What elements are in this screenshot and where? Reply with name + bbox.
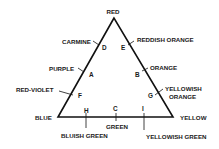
label-yellowish-orange-2: ORANGE (169, 93, 196, 100)
label-red-violet: RED-VIOLET (16, 86, 54, 93)
label-purple: PURPLE (49, 65, 74, 72)
label-yellowish-green: YELLOWISH GREEN (146, 133, 207, 140)
letter-f: F (78, 92, 82, 99)
label-green: GREEN (106, 123, 129, 130)
color-triangle-diagram: RED BLUE YELLOW CARMINE D PURPLE A RED-V… (0, 0, 219, 149)
letter-a: A (89, 71, 94, 78)
label-reddish-orange: REDDISH ORANGE (137, 36, 194, 43)
letter-e: E (121, 44, 126, 51)
label-yellowish-orange-1: YELLOWISH (165, 85, 202, 92)
label-orange: ORANGE (150, 64, 177, 71)
tick-d (93, 41, 99, 45)
vertex-yellow-label: YELLOW (180, 114, 207, 121)
label-carmine: CARMINE (62, 38, 91, 45)
letter-b: B (135, 71, 140, 78)
letter-h: H (84, 107, 89, 114)
letter-d: D (102, 44, 107, 51)
label-bluish-green: BLUISH GREEN (61, 132, 108, 139)
letter-i: I (142, 105, 144, 112)
tick-a (78, 68, 84, 72)
letter-c: C (113, 105, 118, 112)
vertex-red-label: RED (106, 8, 120, 15)
letter-g: G (148, 92, 153, 99)
vertex-blue-label: BLUE (35, 114, 52, 121)
